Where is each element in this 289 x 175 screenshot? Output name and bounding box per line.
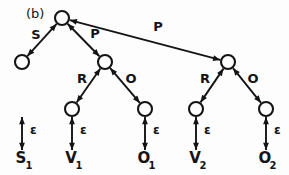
p1-node (98, 55, 112, 69)
edge-r2-label: R (200, 71, 210, 86)
edge-o1-label: O (125, 71, 136, 86)
terminal-edge-layer (19, 117, 269, 150)
edge-p2-arrowhead-child (213, 55, 221, 61)
root-node (55, 11, 69, 25)
o1-node (138, 102, 152, 116)
terminal-v2-subscript: 2 (200, 160, 207, 171)
terminal-o2-epsilon-label: ε (274, 123, 281, 137)
terminal-o2-arrowhead-up (263, 117, 269, 124)
edge-o2-label: O (247, 71, 258, 86)
o2-node (259, 102, 273, 116)
terminal-v2-arrowhead-up (193, 117, 199, 124)
r1-node (65, 102, 79, 116)
terminal-s1-arrowhead-up (19, 117, 25, 124)
s-node (15, 55, 29, 69)
edge-p2-arrowhead-parent (70, 19, 78, 25)
r2-node (189, 102, 203, 116)
terminal-o1-subscript: 1 (149, 160, 156, 171)
terminal-o2-subscript: 2 (270, 160, 277, 171)
edge-p2-label: P (153, 19, 163, 34)
edge-s-label: S (31, 27, 40, 42)
edge-r1-label: R (77, 71, 87, 86)
terminal-v2-epsilon-label: ε (204, 123, 211, 137)
terminal-v1-epsilon-label: ε (80, 123, 87, 137)
p2-node (221, 55, 235, 69)
terminal-o1-arrowhead-up (142, 117, 148, 124)
terminal-s1-subscript: 1 (26, 160, 33, 171)
terminal-s1-epsilon-label: ε (30, 123, 37, 137)
parse-tree-diagram: SPPROROεS1εV1εO1εV2εO2 (b) (0, 0, 289, 175)
edge-p1-label: P (90, 26, 100, 41)
terminal-v1-arrowhead-up (69, 117, 75, 124)
terminal-o1-epsilon-label: ε (153, 123, 160, 137)
terminal-v1-subscript: 1 (76, 160, 83, 171)
figure-panel: SPPROROεS1εV1εO1εV2εO2 (b) (0, 0, 289, 175)
panel-label: (b) (26, 6, 44, 21)
